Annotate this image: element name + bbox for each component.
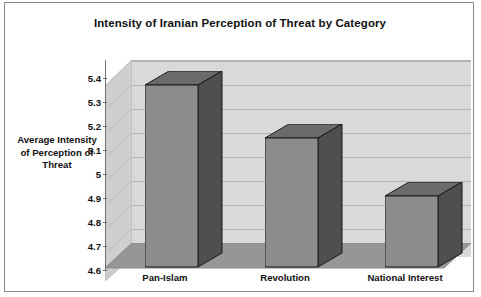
y-tick-4.8: 4.8 [67, 217, 101, 228]
tick-mark [103, 126, 107, 127]
tick-mark [103, 246, 107, 247]
tick-mark [103, 198, 107, 199]
plot-area [105, 47, 471, 279]
y-tick-5.3: 5.3 [67, 97, 101, 108]
bar-revolution[interactable] [265, 124, 343, 268]
tick-mark [103, 78, 107, 79]
tick-mark [103, 174, 107, 175]
y-axis-tick-labels: 5.4 5.3 5.2 5.1 5 4.9 4.8 4.7 4.6 [61, 47, 101, 279]
gridline [132, 61, 471, 62]
y-tick-5.4: 5.4 [67, 73, 101, 84]
chart-title: Intensity of Iranian Perception of Threa… [5, 17, 475, 29]
tick-mark [103, 270, 107, 271]
chart-frame: Intensity of Iranian Perception of Threa… [4, 2, 474, 292]
category-label-revolution: Revolution [231, 272, 339, 283]
tick-mark [103, 102, 107, 103]
y-tick-4.7: 4.7 [67, 241, 101, 252]
y-tick-5: 5 [67, 169, 101, 180]
y-tick-5.2: 5.2 [67, 121, 101, 132]
tick-mark [103, 150, 107, 151]
y-tick-5.1: 5.1 [67, 145, 101, 156]
y-axis-line [105, 60, 106, 271]
tick-mark [103, 222, 107, 223]
category-label-national-interest: National Interest [345, 272, 465, 283]
bar-national-interest[interactable] [385, 182, 463, 268]
category-label-pan-islam: Pan-Islam [111, 272, 219, 283]
y-tick-4.9: 4.9 [67, 193, 101, 204]
bar-pan-islam[interactable] [145, 71, 223, 268]
y-tick-4.6: 4.6 [67, 265, 101, 276]
